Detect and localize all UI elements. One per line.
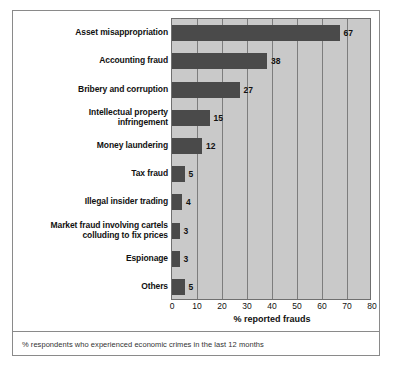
footnote-divider: [13, 331, 379, 332]
gridline-50: [297, 19, 298, 299]
category-label-line: colluding to fix prices: [11, 230, 168, 240]
x-tick-label-70: 70: [342, 301, 351, 311]
bar: [172, 194, 182, 210]
category-label: Illegal insider trading: [11, 196, 168, 206]
bar-value-label: 3: [184, 251, 189, 267]
bar-value-label: 5: [189, 166, 194, 182]
category-label: Bribery and corruption: [11, 84, 168, 94]
x-tick-label-60: 60: [317, 301, 326, 311]
category-label-line: Intellectual property: [11, 107, 168, 117]
category-label: Others: [11, 281, 168, 291]
gridline-60: [322, 19, 323, 299]
category-label-line: Accounting fraud: [11, 55, 168, 65]
bar: [172, 223, 180, 239]
category-label-line: Others: [11, 281, 168, 291]
bar-value-label: 15: [214, 110, 223, 126]
bar-chart: Asset misappropriationAccounting fraudBr…: [13, 11, 379, 329]
x-tick-label-0: 0: [170, 301, 175, 311]
category-label-line: Market fraud involving cartels: [11, 220, 168, 230]
footnote-text: % respondents who experienced economic c…: [22, 340, 372, 349]
x-tick-label-50: 50: [292, 301, 301, 311]
bar-value-label: 12: [206, 138, 215, 154]
bar: [172, 53, 267, 69]
bar-value-label: 4: [186, 194, 191, 210]
category-label: Accounting fraud: [11, 55, 168, 65]
category-label-line: infringement: [11, 117, 168, 127]
category-label: Intellectual propertyinfringement: [11, 107, 168, 127]
category-label: Tax fraud: [11, 168, 168, 178]
bar: [172, 279, 185, 295]
bar: [172, 110, 210, 126]
bar-value-label: 3: [184, 223, 189, 239]
x-tick-label-20: 20: [217, 301, 226, 311]
x-tick-label-80: 80: [367, 301, 376, 311]
plot-area: 673827151254335: [171, 18, 371, 300]
category-label: Market fraud involving cartelscolluding …: [11, 220, 168, 240]
category-label-line: Bribery and corruption: [11, 84, 168, 94]
bar-value-label: 38: [271, 53, 280, 69]
bar: [172, 251, 180, 267]
chart-figure: Asset misappropriationAccounting fraudBr…: [12, 10, 380, 356]
category-label-line: Money laundering: [11, 140, 168, 150]
bar: [172, 25, 340, 41]
gridline-70: [347, 19, 348, 299]
category-label-line: Espionage: [11, 253, 168, 263]
bar: [172, 82, 240, 98]
category-label-line: Asset misappropriation: [11, 27, 168, 37]
x-tick-label-30: 30: [242, 301, 251, 311]
x-axis-title: % reported frauds: [171, 314, 373, 324]
bar-value-label: 67: [344, 25, 353, 41]
category-axis-labels: Asset misappropriationAccounting fraudBr…: [13, 18, 170, 300]
bar-value-label: 5: [189, 279, 194, 295]
x-axis-ticks: 01020304050607080: [171, 301, 373, 315]
x-tick-label-10: 10: [192, 301, 201, 311]
category-label-line: Tax fraud: [11, 168, 168, 178]
bar: [172, 166, 185, 182]
bar-value-label: 27: [244, 82, 253, 98]
x-tick-label-40: 40: [267, 301, 276, 311]
category-label: Asset misappropriation: [11, 27, 168, 37]
category-label-line: Illegal insider trading: [11, 196, 168, 206]
category-label: Money laundering: [11, 140, 168, 150]
category-label: Espionage: [11, 253, 168, 263]
bar: [172, 138, 202, 154]
